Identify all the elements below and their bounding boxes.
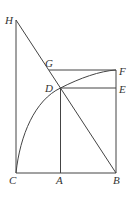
segment-HB <box>16 20 116 173</box>
label-C: C <box>9 174 17 186</box>
label-F: F <box>118 65 126 77</box>
label-A: A <box>55 174 63 186</box>
label-H: H <box>4 14 14 26</box>
label-B: B <box>113 174 120 186</box>
label-D: D <box>44 82 53 94</box>
arc-CDF <box>16 70 116 173</box>
geometry-diagram: H G F D E C A B <box>0 0 134 198</box>
label-G: G <box>45 57 53 69</box>
label-E: E <box>118 83 126 95</box>
